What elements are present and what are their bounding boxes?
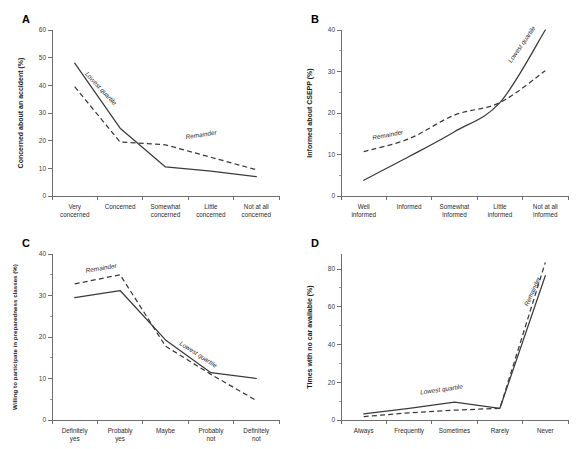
x-category-label: Somewhat: [151, 203, 181, 210]
x-category-label: not: [252, 435, 261, 442]
x-category-label: concerned: [242, 211, 272, 218]
y-tick-label: 0: [42, 416, 46, 423]
series-line-lowest-quartile: [364, 276, 546, 414]
y-tick-label: 40: [328, 341, 336, 348]
series-annotation-lowest-quartile: Lowest quartile: [506, 24, 537, 64]
series-line-lowest-quartile: [75, 291, 257, 379]
chart-panel-b: B010203040WellinformedInformedSomewhatin…: [289, 0, 578, 224]
y-tick-label: 20: [328, 379, 336, 386]
x-category-label: Probably: [198, 427, 224, 435]
x-category-label: concerned: [196, 211, 226, 218]
y-tick-label: 0: [42, 192, 46, 199]
y-tick-label: 10: [328, 151, 336, 158]
x-category-label: Never: [537, 427, 554, 434]
x-category-label: concerned: [60, 211, 90, 218]
series-annotation-remainder: Remainder: [372, 128, 405, 141]
x-category-label: informed: [442, 211, 467, 218]
x-category-label: Not at all: [533, 203, 558, 210]
y-tick-label: 20: [39, 333, 47, 340]
series-line-remainder: [75, 87, 257, 170]
x-category-label: Concerned: [105, 203, 136, 210]
y-tick-label: 20: [39, 137, 47, 144]
chart-panel-c: C010203040DefinitelyyesProbablyyesMaybeP…: [0, 224, 289, 448]
x-category-label: Definitely: [62, 427, 89, 435]
figure-container: A0102030405060VeryconcernedConcernedSome…: [0, 0, 578, 449]
x-category-label: Sometimes: [439, 427, 471, 434]
x-category-label: Not at all: [244, 203, 269, 210]
y-axis-title: Willing to participate in preparedness c…: [11, 264, 18, 410]
x-category-label: informed: [351, 211, 376, 218]
x-category-label: yes: [70, 435, 80, 443]
y-tick-label: 50: [39, 54, 47, 61]
series-line-remainder: [364, 262, 546, 416]
y-tick-label: 30: [39, 109, 47, 116]
x-category-label: Somewhat: [440, 203, 470, 210]
y-tick-label: 10: [39, 165, 47, 172]
x-category-label: Little: [493, 203, 507, 210]
x-category-label: Definitely: [243, 427, 270, 435]
series-annotation-lowest-quartile: Lowest quartile: [178, 339, 219, 369]
panel-letter-d: D: [311, 237, 319, 249]
y-tick-label: 40: [39, 82, 47, 89]
panel-letter-a: A: [22, 13, 30, 25]
chart-svg-c: C010203040DefinitelyyesProbablyyesMaybeP…: [0, 224, 289, 448]
chart-svg-b: B010203040WellinformedInformedSomewhatin…: [289, 0, 578, 224]
chart-panel-d: D020406080AlwaysFrequentlySometimesRarel…: [289, 224, 578, 448]
series-annotation-lowest-quartile: Lowest quartile: [420, 383, 464, 397]
y-axis-title: Concerned about an accident (%): [17, 58, 25, 169]
chart-svg-d: D020406080AlwaysFrequentlySometimesRarel…: [289, 224, 578, 448]
chart-svg-a: A0102030405060VeryconcernedConcernedSome…: [0, 0, 289, 224]
y-tick-label: 80: [328, 265, 336, 272]
x-category-label: Informed: [397, 203, 422, 210]
y-tick-label: 30: [328, 68, 336, 75]
x-category-label: informed: [533, 211, 558, 218]
y-tick-label: 20: [328, 109, 336, 116]
series-annotation-remainder: Remainder: [85, 262, 118, 274]
x-category-label: concerned: [151, 211, 181, 218]
series-line-remainder: [364, 71, 546, 152]
x-category-label: Always: [354, 427, 374, 435]
y-tick-label: 0: [331, 416, 335, 423]
panel-letter-b: B: [311, 13, 319, 25]
y-tick-label: 40: [39, 250, 47, 257]
y-axis-title: Times with no car available (%): [306, 285, 314, 388]
series-annotation-remainder: Remainder: [185, 128, 218, 140]
x-category-label: Well: [358, 203, 370, 210]
y-tick-label: 0: [331, 192, 335, 199]
y-tick-label: 60: [39, 26, 47, 33]
chart-panel-a: A0102030405060VeryconcernedConcernedSome…: [0, 0, 289, 224]
x-category-label: yes: [115, 435, 125, 443]
y-tick-label: 10: [39, 375, 47, 382]
x-category-label: Very: [68, 203, 81, 211]
y-axis-title: Informed about CSEPP (%): [306, 68, 314, 157]
x-category-label: Probably: [108, 427, 134, 435]
x-category-label: Frequently: [394, 427, 425, 435]
panel-letter-c: C: [22, 237, 30, 249]
x-category-label: Rarely: [491, 427, 510, 435]
y-tick-label: 40: [328, 26, 336, 33]
y-tick-label: 30: [39, 292, 47, 299]
y-tick-label: 60: [328, 303, 336, 310]
x-category-label: Maybe: [156, 427, 175, 435]
x-category-label: informed: [488, 211, 513, 218]
x-category-label: Little: [204, 203, 218, 210]
x-category-label: not: [207, 435, 216, 442]
